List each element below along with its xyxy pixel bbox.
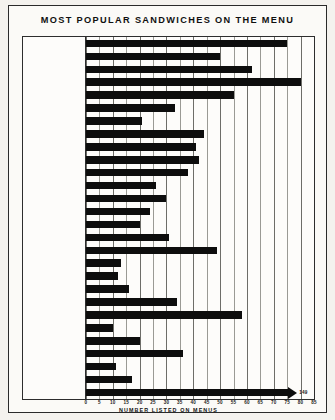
bar[interactable] bbox=[86, 195, 166, 203]
bar[interactable] bbox=[86, 259, 121, 267]
bar[interactable] bbox=[86, 350, 183, 358]
x-tick-label: 20 bbox=[137, 400, 143, 405]
bar[interactable] bbox=[86, 221, 140, 229]
bar[interactable] bbox=[86, 78, 301, 86]
category-label-column bbox=[23, 37, 86, 399]
bar[interactable] bbox=[86, 208, 150, 216]
bar[interactable] bbox=[86, 53, 220, 61]
x-tick-label: 80 bbox=[298, 400, 304, 405]
bar[interactable] bbox=[86, 130, 204, 138]
page-title: MOST POPULAR SANDWICHES ON THE MENU bbox=[9, 15, 326, 25]
bar[interactable] bbox=[86, 324, 113, 332]
bar-truncation-arrow-icon bbox=[288, 387, 297, 399]
bar[interactable] bbox=[86, 247, 217, 255]
bar[interactable] bbox=[86, 376, 132, 384]
bar[interactable] bbox=[86, 117, 142, 125]
x-tick-label: 65 bbox=[258, 400, 264, 405]
bar[interactable] bbox=[86, 66, 252, 74]
x-tick-label: 55 bbox=[231, 400, 237, 405]
x-tick-label: 50 bbox=[217, 400, 223, 405]
x-tick-label: 0 bbox=[85, 400, 88, 405]
bar[interactable] bbox=[86, 285, 129, 293]
bar[interactable] bbox=[86, 169, 188, 177]
bar[interactable] bbox=[86, 91, 234, 99]
x-tick-label: 15 bbox=[123, 400, 129, 405]
bar[interactable] bbox=[86, 234, 169, 242]
x-tick-label: 70 bbox=[271, 400, 277, 405]
x-axis-title: NUMBER LISTED ON MENUS bbox=[22, 407, 315, 413]
bar[interactable] bbox=[86, 143, 196, 151]
x-tick-label: 75 bbox=[284, 400, 290, 405]
bar[interactable] bbox=[86, 104, 175, 112]
bar[interactable] bbox=[86, 363, 116, 371]
bar[interactable] bbox=[86, 182, 156, 190]
x-tick-label: 60 bbox=[244, 400, 250, 405]
bar-value-label: 149 bbox=[299, 390, 307, 395]
bar[interactable] bbox=[86, 156, 199, 164]
x-tick-label: 40 bbox=[191, 400, 197, 405]
bar[interactable] bbox=[86, 337, 140, 345]
x-tick-label: 35 bbox=[177, 400, 183, 405]
chart-page: MOST POPULAR SANDWICHES ON THE MENU HAMB… bbox=[0, 0, 335, 420]
x-tick-label: 10 bbox=[110, 400, 116, 405]
bar[interactable] bbox=[86, 311, 242, 319]
bar[interactable] bbox=[86, 40, 287, 48]
bar[interactable] bbox=[86, 389, 288, 397]
x-tick-label: 25 bbox=[150, 400, 156, 405]
x-tick-label: 5 bbox=[98, 400, 101, 405]
x-tick-label: 45 bbox=[204, 400, 210, 405]
plot-frame: HAMBURGERCHEESEBURGERSTEAK SANDWICHHAMHA… bbox=[22, 36, 315, 400]
bar[interactable] bbox=[86, 272, 118, 280]
x-tick-label: 30 bbox=[164, 400, 170, 405]
x-tick-label: 85 bbox=[311, 400, 317, 405]
chart-outer-frame: MOST POPULAR SANDWICHES ON THE MENU HAMB… bbox=[8, 5, 327, 413]
bar[interactable] bbox=[86, 298, 177, 306]
